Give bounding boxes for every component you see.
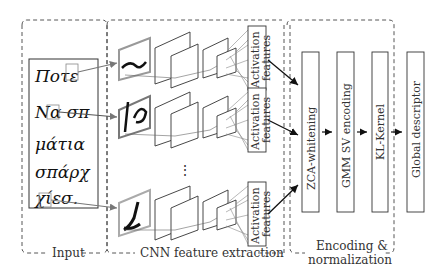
pipeline-diagram: Input Ποτε Να σπ μάτια σπάρχ χίεσ. CNN f…: [0, 0, 447, 279]
activation-label-1b: features: [260, 35, 273, 81]
pipeline-step-kl: KL-Kernel: [372, 52, 388, 212]
pipeline-step-zca: ZCA-whitening: [302, 52, 319, 212]
input-document: Ποτε Να σπ μάτια σπάρχ χίεσ.: [29, 59, 98, 208]
gmm-label: GMM SV encoding: [340, 83, 353, 188]
input-word-4: σπάρχ: [35, 162, 91, 182]
input-word-1: Ποτε: [34, 66, 79, 86]
input-label: Input: [52, 246, 85, 260]
input-word-5: χίεσ.: [34, 188, 78, 208]
cnn-row-2: Activation features: [119, 88, 273, 152]
ellipsis: ⋮: [178, 162, 192, 178]
input-word-3: μάτια: [35, 134, 86, 154]
encoding-label-line2: normalization: [308, 253, 392, 267]
pipeline-step-global: Global descriptor: [407, 52, 424, 212]
activation-label-3b: features: [260, 191, 273, 237]
pipeline-step-gmm: GMM SV encoding: [337, 52, 354, 212]
encoding-label-line1: Encoding &: [316, 239, 388, 253]
global-label: Global descriptor: [410, 80, 423, 178]
cnn-row-3: Activation features: [119, 182, 273, 246]
cnn-label: CNN feature extraction: [140, 246, 284, 260]
kl-label: KL-Kernel: [374, 103, 387, 160]
zca-label: ZCA-whitening: [305, 107, 318, 190]
activation-label-2b: features: [260, 97, 273, 143]
cnn-row-1: Activation features: [119, 26, 273, 90]
